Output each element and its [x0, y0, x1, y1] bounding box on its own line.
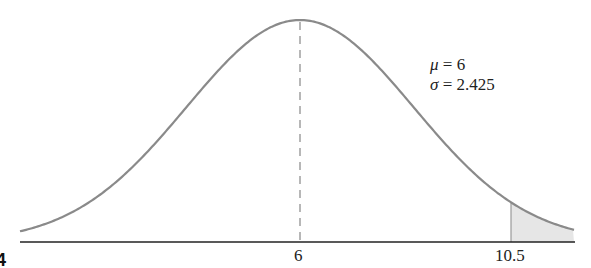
parameters-annotation: μ = 6 σ = 2.425	[430, 55, 495, 95]
normal-curve-chart	[0, 0, 591, 268]
mu-annotation: μ = 6	[430, 55, 495, 75]
figure-number-fragment: 4	[0, 250, 6, 268]
sigma-annotation: σ = 2.425	[430, 75, 495, 95]
normal-curve	[20, 20, 574, 231]
tick-label-cutoff: 10.5	[495, 246, 525, 266]
tick-label-mean: 6	[294, 246, 303, 266]
